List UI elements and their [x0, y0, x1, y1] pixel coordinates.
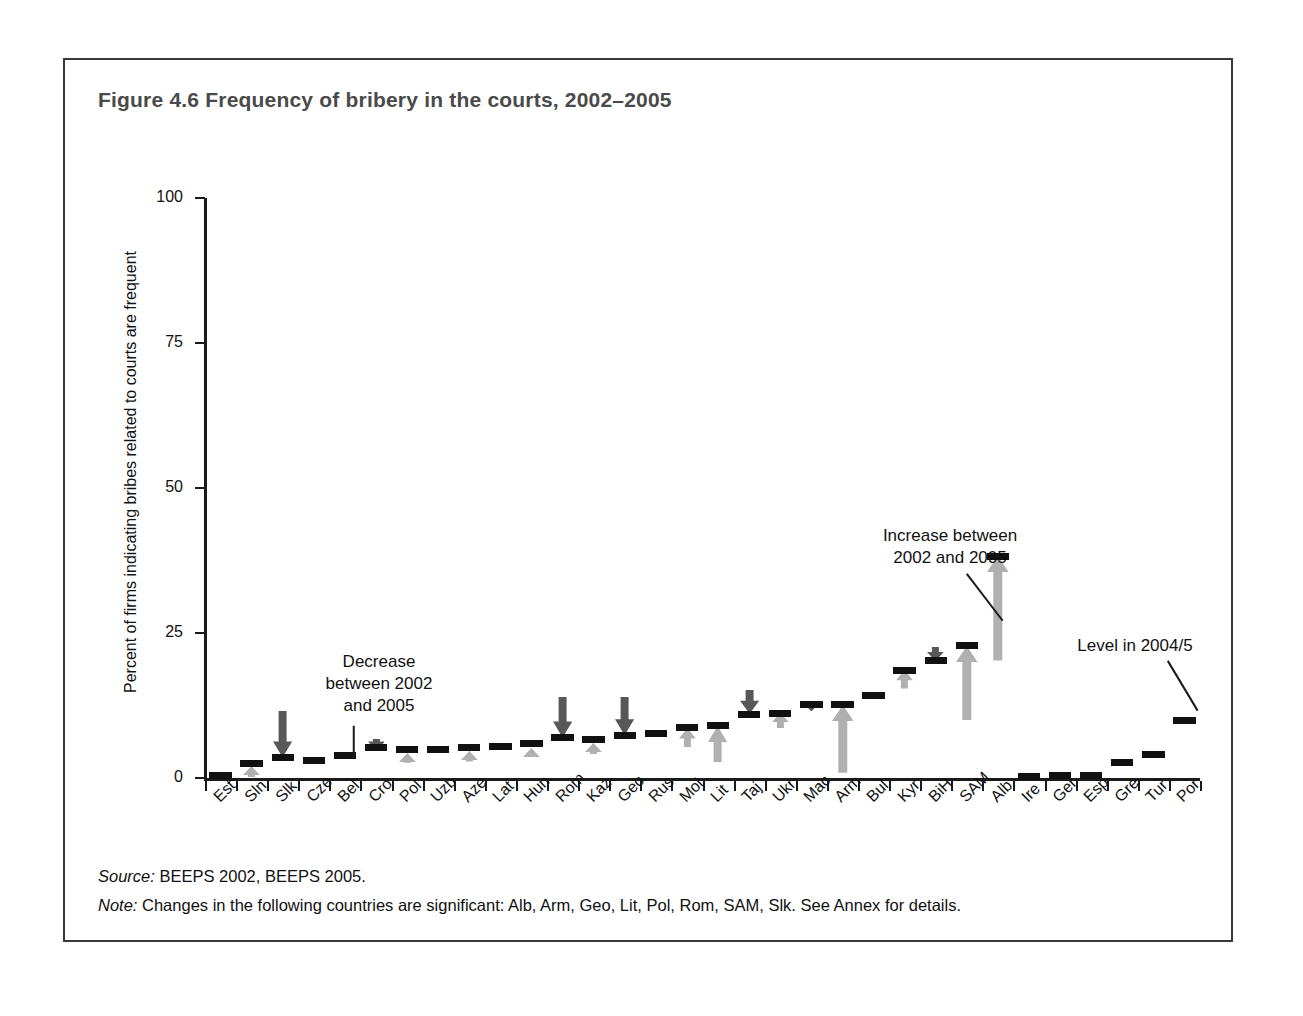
level-marker-sam [956, 642, 978, 649]
change-arrow-increase-sam [956, 646, 978, 720]
level-marker-taj [738, 711, 760, 718]
x-tick [205, 781, 207, 791]
x-tick [765, 781, 767, 791]
level-marker-gre [1111, 759, 1133, 766]
x-axis-label-slk: Slk [272, 777, 300, 805]
x-axis-label-mac: Mac [800, 772, 834, 806]
level-marker-mac [800, 701, 822, 708]
level-marker-lat [489, 743, 511, 750]
y-tick-label: 25 [133, 623, 183, 641]
level-marker-rom [551, 734, 573, 741]
level-marker-mol [676, 724, 698, 731]
level-marker-sln [240, 760, 262, 767]
x-tick [1045, 781, 1047, 791]
decrease-annotation-leader-line [353, 726, 355, 759]
level-marker-geo [614, 732, 636, 739]
source-line: Source: BEEPS 2002, BEEPS 2005. [98, 862, 961, 891]
note-line: Note: Changes in the following countries… [98, 891, 961, 920]
level-marker-por [1173, 717, 1195, 724]
change-arrow-decrease-slk [273, 711, 292, 757]
x-axis-label-bul: Bul [863, 777, 892, 806]
level-marker-bul [862, 692, 884, 699]
y-axis-line [204, 198, 207, 780]
level-marker-kyr [893, 667, 915, 674]
level-marker-slk [272, 754, 294, 761]
level-marker-ger [1049, 772, 1071, 779]
y-tick-label: 100 [133, 188, 183, 206]
level-marker-uzb [427, 746, 449, 753]
change-arrow-decrease-rom [553, 697, 572, 738]
source-text: BEEPS 2002, BEEPS 2005. [155, 867, 366, 885]
change-arrow-increase-alb [987, 556, 1009, 660]
note-label: Note: [98, 896, 137, 914]
y-tick [195, 777, 205, 779]
level-marker-rus [645, 730, 667, 737]
level-marker-kaz [582, 736, 604, 743]
change-arrow-decrease-geo [615, 697, 634, 735]
level-marker-tur [1142, 751, 1164, 758]
change-arrow-increase-lit [708, 726, 727, 762]
decrease-annotation: Decrease between 2002 and 2005 [289, 651, 469, 716]
y-tick [195, 487, 205, 489]
x-axis-label-rom: Rom [552, 769, 589, 806]
level-marker-lit [707, 722, 729, 729]
footnotes: Source: BEEPS 2002, BEEPS 2005. Note: Ch… [98, 862, 961, 920]
increase-annotation: Increase between 2002 and 2005 [835, 525, 1065, 569]
x-axis-label-sam: SAM [956, 768, 993, 805]
y-tick-label: 50 [133, 478, 183, 496]
level-marker-cze [303, 757, 325, 764]
x-axis-label-taj: Taj [738, 779, 765, 806]
level-marker-ire [1018, 773, 1040, 780]
level-marker-cro [365, 744, 387, 751]
x-axis-label-sln: Sln [241, 777, 270, 806]
level-marker-arm [831, 701, 853, 708]
level-marker-pol [396, 746, 418, 753]
level-marker-bih [925, 657, 947, 664]
level-marker-esp [1080, 772, 1102, 779]
y-tick [195, 342, 205, 344]
level-annotation: Level in 2004/5 [1035, 635, 1235, 657]
note-text: Changes in the following countries are s… [137, 896, 961, 914]
change-arrow-increase-arm [832, 705, 854, 773]
level-marker-est [209, 772, 231, 779]
source-label: Source: [98, 867, 155, 885]
x-axis-label-lat: Lat [489, 777, 517, 805]
y-tick [195, 197, 205, 199]
y-tick [195, 632, 205, 634]
x-tick [734, 781, 736, 791]
x-axis-label-bel: Bel [334, 777, 363, 806]
x-axis-label-ire: Ire [1018, 780, 1044, 806]
level-marker-ukr [769, 710, 791, 717]
x-axis-label-pol: Pol [396, 777, 425, 806]
level-marker-hun [520, 740, 542, 747]
level-marker-aze [458, 744, 480, 751]
chart-plot-area: Percent of firms indicating bribes relat… [65, 60, 1235, 944]
y-tick-label: 0 [133, 768, 183, 786]
y-tick-label: 75 [133, 333, 183, 351]
figure-frame: Figure 4.6 Frequency of bribery in the c… [63, 58, 1233, 942]
x-axis-label-lit: Lit [707, 781, 732, 806]
x-axis-label-geo: Geo [614, 772, 648, 806]
x-axis-label-est: Est [210, 777, 239, 806]
level-annotation-leader-line [1167, 660, 1198, 711]
